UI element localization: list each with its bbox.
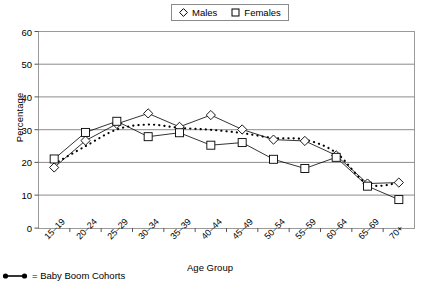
data-point-square <box>113 117 121 125</box>
data-point-square <box>82 128 90 136</box>
data-point-square <box>238 139 246 147</box>
data-point-square <box>50 155 58 163</box>
dotted-line-icon <box>2 271 28 280</box>
data-point-square <box>332 153 340 161</box>
data-point-square <box>301 164 309 172</box>
data-point-square <box>207 141 215 149</box>
data-point-square <box>176 129 184 137</box>
y-axis-ticks <box>35 32 39 229</box>
data-point-square <box>395 196 403 204</box>
chart-footnote: = Baby Boom Cohorts <box>2 270 125 281</box>
data-point-square <box>144 133 152 141</box>
chart-figure: Males Females Percentage 60 50 40 30 20 … <box>0 0 423 289</box>
data-point-square <box>270 155 278 163</box>
plot-area <box>0 0 423 289</box>
data-point-square <box>364 182 372 190</box>
footnote-text: = Baby Boom Cohorts <box>32 270 125 281</box>
x-axis-title: Age Group <box>150 262 270 273</box>
